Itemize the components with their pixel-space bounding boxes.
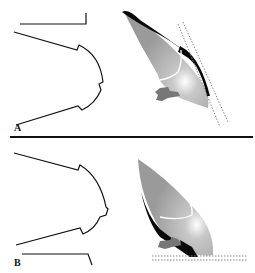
wing-model [138,159,213,257]
panel-b-drawing [0,137,255,273]
panel-label-a: A [14,122,21,133]
scale-bar [20,13,86,24]
flipper-outline [14,153,108,245]
panel-a: A [0,0,255,136]
wing-model [122,11,210,108]
panel-label-b: B [14,257,21,268]
flipper-outline [14,32,103,125]
panel-b: B [0,137,255,273]
scale-bar [22,254,92,265]
panel-a-drawing [0,0,255,136]
